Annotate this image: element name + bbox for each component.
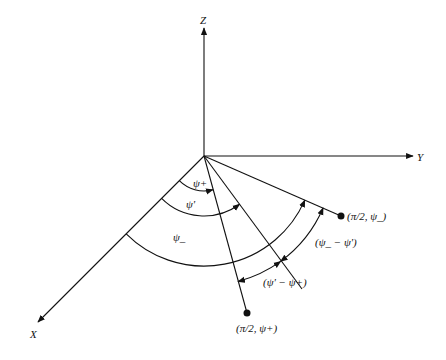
psi-prime-arc [162,198,240,216]
y-axis-label: Y [417,151,425,163]
psi-minus-point-dot [338,213,345,220]
psi-minus-point-label: (π/2, ψ_) [347,210,387,223]
psi-minus-label: ψ_ [173,231,186,243]
coordinate-diagram: Z Y X ψ+ ψ' ψ_ (ψ_ − ψ') (ψ' − ψ+) (π/2,… [0,0,446,360]
psi-minus-ray [204,156,341,216]
psi-prime-label: ψ' [186,198,196,210]
diff-prime-plus-label: (ψ' − ψ+) [263,276,307,289]
psi-plus-point-label: (π/2, ψ+) [236,322,277,335]
psi-plus-point-dot [244,310,251,317]
diff-minus-prime-label: (ψ_ − ψ') [315,236,357,249]
diff-minus-prime-arc [281,208,324,261]
psi-plus-label: ψ+ [193,177,207,189]
x-axis-label: X [29,328,38,340]
z-axis-label: Z [200,14,207,26]
psi-plus-ray [204,156,247,313]
psi-prime-ray [204,156,302,289]
